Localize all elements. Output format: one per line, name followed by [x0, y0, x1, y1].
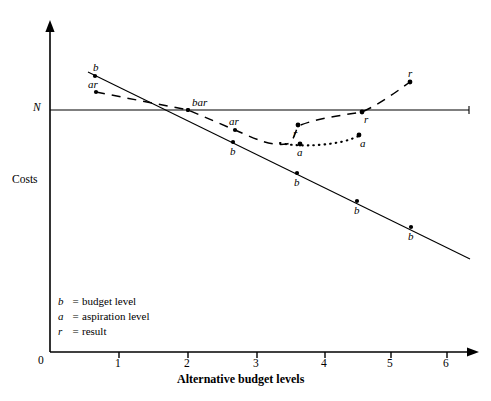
legend-symbol-b: b [58, 295, 69, 307]
figure-canvas: N Costs 0 1 2 3 4 5 6 Alternative budget… [0, 0, 491, 401]
point-label-r-6: r [408, 68, 412, 79]
chart-svg [0, 0, 491, 401]
legend-row-aspiration: a = aspiration level [58, 310, 150, 322]
x-axis-tick-3: 3 [253, 358, 259, 370]
x-axis-tick-0: 0 [38, 355, 44, 367]
point-label-r-4: r [293, 128, 297, 139]
y-axis [45, 20, 54, 352]
point-label-r-5: r [364, 114, 368, 125]
point-label-a-5: a [360, 138, 366, 149]
x-axis-tick-5: 5 [387, 358, 393, 370]
point-label-ar-3: ar [229, 116, 239, 127]
point-label-b-5: b [354, 205, 360, 216]
legend-equals-b: = [69, 295, 82, 307]
legend-row-result: r = result [58, 325, 150, 337]
x-axis-tick-4: 4 [321, 358, 327, 370]
legend-symbol-a: a [58, 310, 69, 322]
legend-equals-a: = [69, 310, 82, 322]
legend-row-budget: b = budget level [58, 295, 150, 307]
legend-text-result: result [82, 325, 106, 337]
reference-line-N [50, 106, 469, 114]
legend-equals-r: = [69, 325, 82, 337]
legend: b = budget level a = aspiration level r … [58, 295, 150, 340]
point-label-b-3: b [230, 146, 236, 157]
legend-symbol-r: r [58, 325, 69, 337]
point-label-b-4: b [294, 177, 300, 188]
point-label-a-4: a [297, 147, 303, 158]
x-axis-tick-6: 6 [443, 358, 449, 370]
point-label-ar-1: ar [88, 79, 98, 90]
x-axis-tick-2: 2 [184, 358, 190, 370]
legend-text-aspiration: aspiration level [82, 310, 150, 322]
point-label-b-1: b [93, 62, 99, 73]
point-label-b-6: b [408, 231, 414, 242]
series-result [94, 80, 413, 145]
y-axis-label: Costs [12, 174, 38, 186]
legend-text-budget: budget level [82, 295, 136, 307]
point-label-bar: bar [192, 97, 207, 108]
x-axis-tick-1: 1 [115, 358, 121, 370]
x-axis-title: Alternative budget levels [177, 373, 304, 385]
reference-line-label-N: N [33, 102, 41, 114]
